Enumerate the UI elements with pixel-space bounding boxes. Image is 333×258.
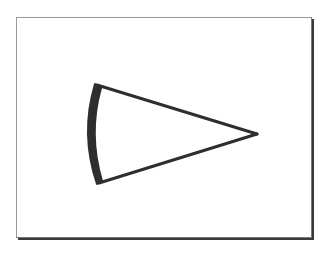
cone-wedge-diagram [0,0,333,258]
wedge-bottom-edge [99,134,257,183]
wedge-base-arc [88,84,102,184]
wedge-top-edge [97,85,257,134]
